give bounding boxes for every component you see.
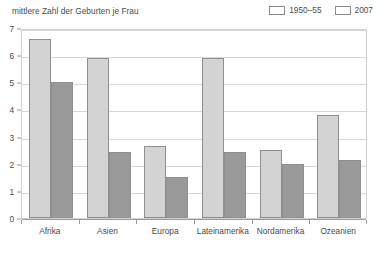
bar-lateinamerika-0 <box>202 58 224 218</box>
legend-swatch-2007 <box>335 6 351 15</box>
bar-nordamerika-0 <box>260 150 282 218</box>
bar-group <box>87 30 131 218</box>
plot-area <box>22 30 366 218</box>
x-tick-label: Asien <box>97 226 118 236</box>
y-tick-label: 4 <box>9 105 14 115</box>
bar-lateinamerika-1 <box>224 152 246 219</box>
legend-item-2007: 2007 <box>335 5 373 15</box>
y-axis: 01234567 <box>0 29 21 219</box>
x-tick-label: Lateinamerika <box>197 226 249 236</box>
x-tick-mark <box>21 220 22 224</box>
x-tick-mark <box>136 220 137 224</box>
bar-afrika-1 <box>51 82 73 218</box>
y-tick-label: 2 <box>9 160 14 170</box>
x-tick-mark <box>252 220 253 224</box>
bar-group <box>29 30 73 218</box>
x-tick-mark <box>366 220 367 224</box>
bar-group <box>202 30 246 218</box>
chart-title: mittlere Zahl der Geburten je Frau <box>12 6 139 16</box>
bars-layer <box>22 30 366 218</box>
bar-ozeanien-0 <box>317 115 339 218</box>
bar-europa-0 <box>144 146 166 218</box>
x-tick-label: Afrika <box>39 226 60 236</box>
y-tick-label: 0 <box>9 214 14 224</box>
x-tick-mark <box>79 220 80 224</box>
bar-asien-1 <box>109 152 131 219</box>
legend-item-1950-55: 1950–55 <box>269 5 321 15</box>
plot-frame <box>21 29 367 219</box>
y-tick-label: 5 <box>9 78 14 88</box>
x-tick-label: Europa <box>152 226 179 236</box>
bar-europa-1 <box>166 177 188 218</box>
chart-header: mittlere Zahl der Geburten je Frau 1950–… <box>0 0 390 24</box>
x-tick-label: Nordamerika <box>257 226 305 236</box>
bar-afrika-0 <box>29 39 51 218</box>
bar-group <box>144 30 188 218</box>
x-tick-label: Ozeanien <box>320 226 356 236</box>
legend-label-2007: 2007 <box>355 5 373 15</box>
x-axis: AfrikaAsienEuropaLateinamerikaNordamerik… <box>21 220 367 240</box>
bar-ozeanien-1 <box>339 160 361 218</box>
bar-group <box>317 30 361 218</box>
legend-label-1950-55: 1950–55 <box>289 5 321 15</box>
x-tick-mark <box>194 220 195 224</box>
x-tick-mark <box>309 220 310 224</box>
y-tick-label: 6 <box>9 51 14 61</box>
bar-asien-0 <box>87 58 109 218</box>
y-tick-label: 1 <box>9 187 14 197</box>
chart-legend: 1950–55 2007 <box>269 5 373 15</box>
y-tick-label: 3 <box>9 133 14 143</box>
legend-swatch-1950-55 <box>269 6 285 15</box>
bar-group <box>260 30 304 218</box>
bar-nordamerika-1 <box>282 164 304 218</box>
y-tick-label: 7 <box>9 24 14 34</box>
